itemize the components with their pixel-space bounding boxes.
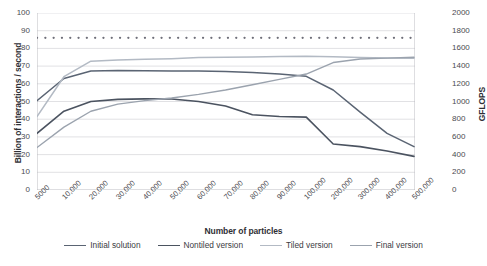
legend-label: Tiled version bbox=[286, 240, 333, 250]
series-line bbox=[37, 56, 414, 116]
y-axis-left-tick: 0 bbox=[4, 185, 30, 194]
y-axis-left-tick: 90 bbox=[4, 26, 30, 35]
y-axis-right-tick: 1000 bbox=[452, 97, 482, 106]
y-axis-right-tick: 600 bbox=[452, 132, 482, 141]
legend-line-icon bbox=[64, 245, 86, 246]
y-axis-left-tick: 70 bbox=[4, 61, 30, 70]
y-axis-left-tick: 30 bbox=[4, 132, 30, 141]
y-axis-right-tick: 400 bbox=[452, 150, 482, 159]
y-axis-right-tick: 1400 bbox=[452, 61, 482, 70]
series-line bbox=[37, 99, 414, 157]
x-axis-title: Number of particles bbox=[0, 226, 487, 236]
legend-label: Nontiled version bbox=[184, 240, 244, 250]
legend-item[interactable]: Initial solution bbox=[64, 240, 140, 250]
legend-item[interactable]: Tiled version bbox=[260, 240, 333, 250]
y-axis-right-tick: 800 bbox=[452, 114, 482, 123]
chart-container: Billion of interactions / second GFLOPS … bbox=[0, 0, 487, 266]
legend-item[interactable]: Final version bbox=[350, 240, 423, 250]
legend-line-icon bbox=[350, 245, 372, 246]
legend-label: Initial solution bbox=[90, 240, 140, 250]
y-axis-left-tick: 100 bbox=[4, 8, 30, 17]
y-axis-right-tick: 1200 bbox=[452, 79, 482, 88]
y-axis-right-tick: 2000 bbox=[452, 8, 482, 17]
legend-line-icon bbox=[158, 245, 180, 246]
legend-label: Final version bbox=[376, 240, 423, 250]
y-axis-left-tick: 50 bbox=[4, 97, 30, 106]
chart-legend: Initial solutionNontiled versionTiled ve… bbox=[0, 240, 487, 250]
legend-line-icon bbox=[260, 245, 282, 246]
chart-svg bbox=[37, 13, 415, 190]
y-axis-left-tick: 60 bbox=[4, 79, 30, 88]
y-axis-right-tick: 1600 bbox=[452, 43, 482, 52]
y-axis-left-tick: 10 bbox=[4, 167, 30, 176]
plot-area bbox=[37, 13, 415, 190]
y-axis-left-tick: 40 bbox=[4, 114, 30, 123]
y-axis-left-tick: 20 bbox=[4, 150, 30, 159]
y-axis-right-tick: 1800 bbox=[452, 26, 482, 35]
y-axis-right-tick: 200 bbox=[452, 167, 482, 176]
y-axis-right-tick: 0 bbox=[452, 185, 482, 194]
legend-item[interactable]: Nontiled version bbox=[158, 240, 244, 250]
x-axis-tick: 5000 bbox=[33, 183, 51, 201]
series-line bbox=[37, 71, 414, 147]
y-axis-left-tick: 80 bbox=[4, 43, 30, 52]
